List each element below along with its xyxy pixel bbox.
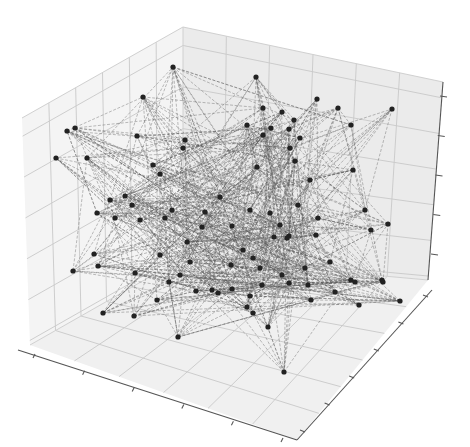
network-node [107,197,112,202]
network-node [253,74,258,79]
network-node [215,290,220,295]
network-node [279,272,284,277]
z-tick [436,175,443,176]
network-node [327,259,332,264]
network-node [260,105,265,110]
network-node [314,96,319,101]
network-node [287,145,292,150]
network-node [259,282,264,287]
network-node [180,145,185,150]
network-node [348,122,353,127]
network-node [352,279,357,284]
network-node [302,265,307,270]
network-node [389,106,394,111]
network-node [140,94,145,99]
x-tick [182,404,184,408]
network-node [217,194,222,199]
network-node [91,251,96,256]
network-node [385,221,390,226]
network-node [240,247,245,252]
z-tick [431,254,438,255]
network-node [397,298,402,303]
network-node [308,297,313,302]
x-tick [132,388,134,392]
network-node [247,293,252,298]
network-node [265,324,270,329]
network-node [250,310,255,315]
network-node [100,310,105,315]
network-node [166,279,171,284]
network-node [129,202,134,207]
network-node [199,224,204,229]
network-node [244,304,249,309]
network-node [209,287,214,292]
network-node [184,239,189,244]
network-node [286,280,291,285]
network-node [356,302,361,307]
network-node [64,128,69,133]
network-node [257,265,262,270]
network-node [94,210,99,215]
network-node [95,263,100,268]
network-node [150,162,155,167]
network-node [271,234,276,239]
network-node [295,202,300,207]
network-node [177,272,182,277]
network-node [175,334,180,339]
network-node [250,255,255,260]
network-node [368,227,373,232]
network-node [332,289,337,294]
network-node [277,222,282,227]
network-node [292,158,297,163]
network-node [182,137,187,142]
z-tick [433,215,440,216]
network-node [132,270,137,275]
chart-canvas [0,0,470,447]
network-node [260,132,265,137]
network-node [169,207,174,212]
network-node [244,122,249,127]
network-node [84,155,89,160]
network-node [247,207,252,212]
network-node [137,217,142,222]
network-node [284,235,289,240]
network-node [154,297,159,302]
network-node [268,125,273,130]
network-node [254,164,259,169]
network-node [193,288,198,293]
network-node [134,133,139,138]
network-node [162,215,167,220]
network-node [307,177,312,182]
network-node [53,155,58,160]
network-node [131,313,136,318]
network-node [229,223,234,228]
x-tick [231,421,233,425]
network-node [315,215,320,220]
network-node [281,369,286,374]
network-node [70,268,75,273]
network-node [297,135,302,140]
x-tick [281,438,283,442]
network-node [229,286,234,291]
3d-network-chart [0,0,470,447]
network-node [72,125,77,130]
network-node [187,259,192,264]
network-node [170,64,175,69]
network-node [157,171,162,176]
network-node [313,232,318,237]
network-node [380,279,385,284]
network-node [335,105,340,110]
network-node [157,252,162,257]
network-node [122,193,127,198]
network-node [362,207,367,212]
network-node [291,117,296,122]
network-node [279,109,284,114]
network-node [350,167,355,172]
network-node [286,126,291,131]
network-node [112,215,117,220]
network-node [228,262,233,267]
network-node [202,209,207,214]
network-node [267,210,272,215]
network-node [305,282,310,287]
